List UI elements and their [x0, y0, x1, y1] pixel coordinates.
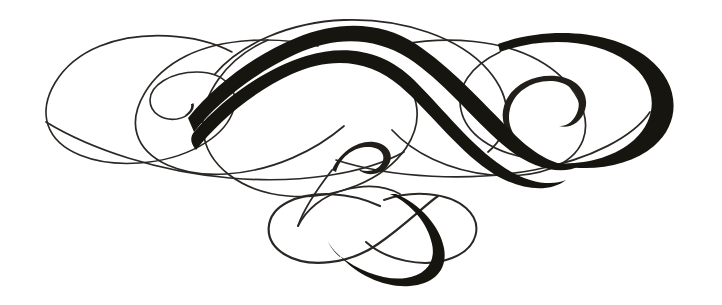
flourish-svg: Calligraphic Flourish Ornament Symmetric…: [0, 0, 722, 305]
ornament-artboard: Calligraphic Flourish Ornament Symmetric…: [0, 0, 722, 305]
